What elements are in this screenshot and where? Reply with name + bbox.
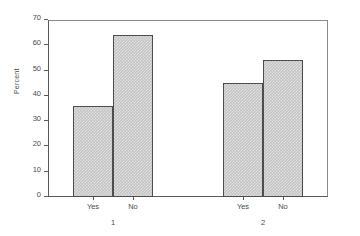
y-axis: 010203040506070: [0, 0, 48, 197]
bar: [73, 106, 113, 197]
x-axis: YesNo1YesNo2: [48, 197, 328, 236]
x-axis-group-label: 2: [261, 218, 265, 227]
x-tick-mark: [243, 197, 244, 200]
bar-chart: Percent 010203040506070 YesNo1YesNo2: [0, 0, 360, 236]
bars-layer: [48, 20, 328, 197]
y-tick-label: 30: [33, 115, 41, 123]
x-axis-category-label: No: [128, 202, 138, 211]
bar: [263, 60, 303, 197]
bar: [113, 35, 153, 197]
x-tick-mark: [93, 197, 94, 200]
x-tick-mark: [283, 197, 284, 200]
y-tick-label: 60: [33, 39, 41, 47]
y-tick-label: 50: [33, 65, 41, 73]
bar: [223, 83, 263, 197]
x-axis-category-label: No: [278, 202, 288, 211]
y-tick-label: 0: [37, 191, 41, 199]
x-axis-group-label: 1: [111, 218, 115, 227]
x-axis-category-label: Yes: [237, 202, 249, 211]
y-tick-label: 20: [33, 140, 41, 148]
y-tick-label: 40: [33, 90, 41, 98]
y-tick-label: 70: [33, 14, 41, 22]
x-tick-mark: [133, 197, 134, 200]
y-tick-label: 10: [33, 166, 41, 174]
x-axis-category-label: Yes: [87, 202, 99, 211]
